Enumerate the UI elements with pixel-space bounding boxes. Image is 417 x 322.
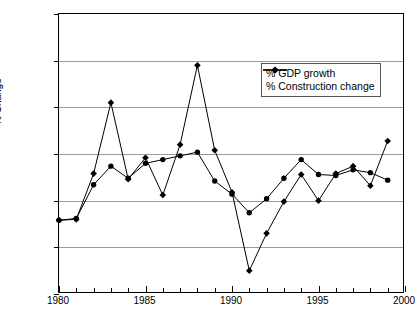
data-point-circle	[368, 170, 373, 175]
data-point-diamond	[56, 217, 63, 224]
data-point-circle	[160, 157, 165, 162]
data-series-layer	[59, 14, 405, 294]
y-axis-title: % Change	[0, 78, 3, 125]
chart-legend: % GDP growth % Construction change	[261, 63, 381, 97]
chart-container: % Change % GDP growth % Construction cha…	[0, 0, 417, 322]
x-tick-label: 2000	[379, 296, 417, 306]
data-point-diamond	[160, 192, 167, 199]
data-point-diamond	[246, 267, 253, 274]
x-tick-label: 1980	[33, 296, 83, 306]
data-point-circle	[91, 182, 96, 187]
data-point-circle	[212, 178, 217, 183]
data-point-diamond	[281, 198, 288, 205]
data-point-diamond	[194, 62, 201, 69]
data-point-diamond	[315, 197, 322, 204]
data-point-diamond	[384, 138, 391, 145]
data-point-circle	[264, 196, 269, 201]
x-tick-mark	[405, 286, 406, 292]
data-point-diamond	[177, 141, 184, 148]
data-point-circle	[299, 157, 304, 162]
data-point-diamond	[298, 171, 305, 178]
data-point-diamond	[90, 170, 97, 177]
data-point-circle	[195, 149, 200, 154]
x-tick-label: 1995	[293, 296, 343, 306]
legend-marker-diamond-icon	[262, 64, 288, 76]
plot-area: % GDP growth % Construction change	[58, 13, 404, 293]
x-tick-label: 1990	[206, 296, 256, 306]
x-tick-label: 1985	[120, 296, 170, 306]
legend-label-construction: % Construction change	[266, 80, 375, 93]
data-point-circle	[385, 177, 390, 182]
series-gdp-growth	[56, 149, 390, 223]
data-point-diamond	[211, 147, 218, 154]
data-point-circle	[247, 210, 252, 215]
data-point-circle	[281, 176, 286, 181]
legend-entry-construction: % Construction change	[266, 80, 375, 93]
data-point-circle	[316, 172, 321, 177]
data-point-circle	[177, 153, 182, 158]
data-point-circle	[108, 163, 113, 168]
series-line	[59, 152, 388, 220]
data-point-diamond	[108, 99, 115, 106]
data-point-diamond	[263, 230, 270, 237]
